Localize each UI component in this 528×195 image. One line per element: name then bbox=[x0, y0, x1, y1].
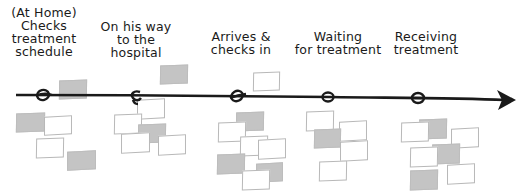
stage-node-receiving bbox=[411, 93, 425, 103]
timeline-line bbox=[16, 95, 505, 100]
journey-diagram: (At Home) Checks treatment schedule On h… bbox=[0, 0, 528, 195]
timeline bbox=[0, 0, 528, 195]
stage-node-on-way bbox=[132, 91, 141, 104]
stage-node-arrives bbox=[229, 89, 246, 104]
